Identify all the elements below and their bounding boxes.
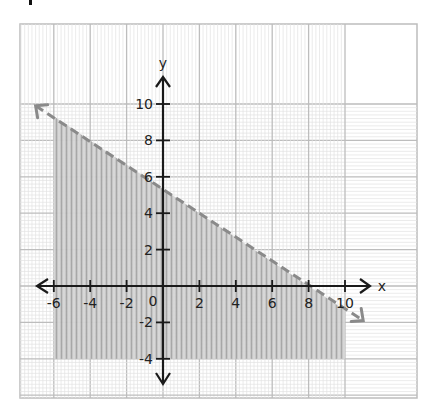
x-tick-label: 4 [231,295,240,311]
x-axis-label: x [378,278,386,294]
y-tick-label: 10 [135,96,153,112]
y-tick-label: 4 [144,205,153,221]
y-tick-label: 2 [144,242,153,258]
x-tick-label: 2 [195,295,204,311]
inequality-graph: -6-4-22468100108642-2-4xy [0,0,431,414]
origin-label: 0 [149,293,158,309]
x-tick-label: 6 [268,295,277,311]
x-tick-label: -4 [83,295,97,311]
x-tick-label: -6 [47,295,61,311]
y-tick-label: -2 [139,314,153,330]
y-axis-label: y [159,55,167,71]
y-tick-label: 8 [144,132,153,148]
x-tick-label: 10 [336,295,354,311]
y-tick-label: 6 [144,169,153,185]
x-tick-label: 8 [304,295,313,311]
x-tick-label: -2 [120,295,134,311]
y-tick-label: -4 [139,351,153,367]
